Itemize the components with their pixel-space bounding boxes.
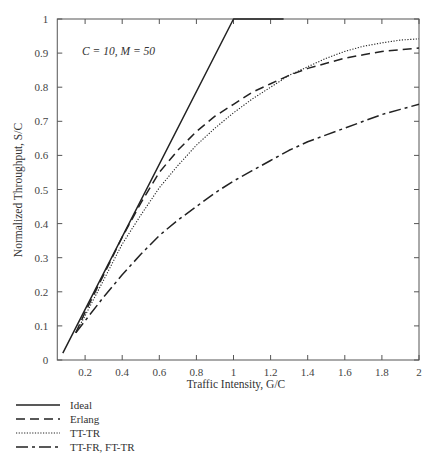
series-ideal	[63, 19, 284, 353]
y-tick-label: 0.5	[35, 184, 49, 196]
dotted-line-icon	[16, 429, 60, 437]
x-tick-label: 0.2	[78, 366, 92, 378]
x-tick-label: 1.4	[301, 366, 315, 378]
y-tick-label: 0.6	[35, 149, 49, 161]
y-tick-label: 0.2	[35, 286, 49, 298]
y-tick-label: 1	[43, 13, 49, 25]
legend-label: TT-FR, FT-TR	[70, 440, 135, 454]
x-tick-label: 1.6	[338, 366, 352, 378]
x-tick-label: 1	[231, 366, 237, 378]
legend-item-tt-fr-ft-tr: TT-FR, FT-TR	[16, 440, 135, 454]
series-tt-tr	[76, 39, 419, 333]
y-tick-label: 0.3	[35, 252, 49, 264]
solid-line-icon	[16, 401, 60, 409]
chart-annotation: C = 10, M = 50	[82, 45, 155, 58]
chart: 0.20.40.60.811.21.41.61.8200.10.20.30.40…	[0, 0, 439, 395]
legend-item-erlang: Erlang	[16, 412, 135, 426]
y-tick-label: 0	[43, 354, 49, 366]
x-tick-label: 0.4	[115, 366, 129, 378]
y-tick-label: 0.8	[35, 81, 49, 93]
legend-item-tt-tr: TT-TR	[16, 426, 135, 440]
plot-axes: 0.20.40.60.811.21.41.61.8200.10.20.30.40…	[35, 13, 422, 378]
chart-legend: Ideal Erlang TT-TR TT-FR, FT-TR	[16, 398, 135, 454]
y-tick-label: 0.1	[35, 320, 49, 332]
y-tick-label: 0.9	[35, 47, 49, 59]
dashed-line-icon	[16, 415, 60, 423]
x-tick-label: 1.8	[375, 366, 389, 378]
x-axis-label: Traffic Intensity, G/C	[187, 378, 286, 391]
legend-item-ideal: Ideal	[16, 398, 135, 412]
legend-label: Ideal	[70, 398, 92, 412]
y-tick-label: 0.4	[35, 218, 49, 230]
dashdot-line-icon	[16, 443, 60, 451]
series-tt-fr-ft-tr	[76, 104, 419, 332]
x-tick-label: 0.8	[190, 366, 204, 378]
x-tick-label: 1.2	[264, 366, 278, 378]
plot-series	[63, 19, 419, 353]
legend-label: Erlang	[70, 412, 99, 426]
legend-label: TT-TR	[70, 426, 100, 440]
x-tick-label: 2	[416, 366, 422, 378]
y-tick-label: 0.7	[35, 115, 49, 127]
x-tick-label: 0.6	[152, 366, 166, 378]
plot-frame	[57, 19, 419, 360]
y-axis-label: Normalized Throughput, S/C	[12, 123, 25, 258]
series-erlang	[76, 48, 419, 333]
